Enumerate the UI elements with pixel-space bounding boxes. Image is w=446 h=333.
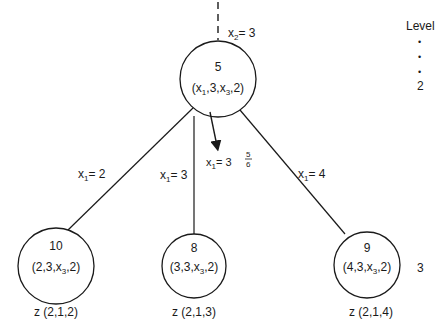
child-node-z: z (2,1,4) — [349, 305, 393, 319]
level-dot: • — [418, 67, 421, 77]
arrow-label-frac-num: 5 — [246, 150, 251, 159]
root-node-id: 5 — [215, 60, 222, 74]
root-node: 5 (x1,3,x3,2) — [180, 41, 256, 117]
level-dot: • — [418, 52, 421, 62]
level-title: Level — [406, 19, 435, 33]
child-node-right: 9 (4,3,x3,2) z (2,1,4) — [334, 232, 400, 319]
child-node-tuple: (4,3,x3,2) — [343, 260, 391, 276]
child-node-id: 9 — [364, 241, 371, 255]
root-node-tuple: (x1,3,x3,2) — [192, 81, 244, 97]
child-node-z: z (2,1,3) — [172, 305, 216, 319]
incoming-branch-label: x2= 3 — [228, 26, 256, 42]
child-node-tuple: (3,3,x3,2) — [170, 260, 218, 276]
child-node-tuple: (2,3,x3,2) — [32, 260, 80, 276]
level-dot: • — [418, 37, 421, 47]
edge-left-label: x1= 2 — [78, 167, 106, 183]
child-node-z: z (2,1,2) — [34, 305, 78, 319]
level-3-label: 3 — [417, 261, 424, 275]
level-2-label: 2 — [417, 79, 424, 93]
arrow-label: x1= 3 — [206, 156, 232, 171]
child-node-left: 10 (2,3,x3,2) z (2,1,2) — [18, 228, 94, 319]
child-node-id: 8 — [191, 241, 198, 255]
branch-tree-diagram: x2= 3 Level • • • 2 3 5 (x1,3,x3,2) x1= … — [0, 0, 446, 333]
edge-right-label: x1= 4 — [298, 167, 326, 183]
child-node-id: 10 — [49, 239, 63, 253]
edge-right — [240, 110, 345, 234]
child-node-middle: 8 (3,3,x3,2) z (2,1,3) — [162, 234, 226, 319]
edge-middle-label: x1= 3 — [160, 168, 188, 184]
arrow-label-frac-den: 6 — [246, 160, 251, 169]
